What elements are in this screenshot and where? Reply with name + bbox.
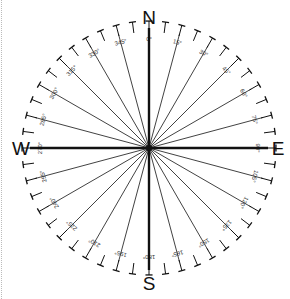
tick-mark <box>69 240 78 251</box>
tick-mark <box>23 128 34 135</box>
tick-mark <box>57 56 67 66</box>
south-label: S <box>143 273 156 294</box>
tick-mark <box>207 36 216 47</box>
tick-mark <box>97 29 104 40</box>
tick-mark <box>241 219 252 228</box>
tick-mark <box>241 68 252 77</box>
tick-mark <box>162 22 169 33</box>
tick-mark <box>256 192 267 199</box>
compass-ray <box>149 148 180 262</box>
compass-ray <box>90 148 149 250</box>
tick-mark <box>82 36 91 47</box>
tick-mark <box>82 248 91 259</box>
tick-mark <box>249 81 260 90</box>
tick-mark <box>231 230 241 240</box>
degree-label: 105° <box>250 170 259 184</box>
compass-ray <box>35 117 149 148</box>
tick-mark <box>264 161 275 168</box>
tick-mark <box>37 81 48 90</box>
compass-ray <box>118 148 149 262</box>
degree-label: 285° <box>39 112 48 126</box>
tick-mark <box>113 260 120 271</box>
tick-mark <box>30 96 41 103</box>
tick-mark <box>261 177 272 184</box>
degree-label: 330° <box>87 47 101 59</box>
degree-label: 300° <box>49 86 61 100</box>
tick-mark <box>129 263 136 274</box>
compass-ray <box>35 148 149 179</box>
degree-label: 15° <box>172 38 183 46</box>
degree-label: 75° <box>251 115 259 126</box>
degree-label: 165° <box>170 249 184 258</box>
tick-mark <box>25 112 36 119</box>
tick-mark <box>57 230 67 240</box>
tick-mark <box>193 255 200 266</box>
tick-mark <box>23 161 34 168</box>
tick-mark <box>207 248 216 259</box>
tick-mark <box>261 112 272 119</box>
tick-mark <box>25 177 36 184</box>
tick-mark <box>46 219 57 228</box>
tick-mark <box>46 68 57 77</box>
compass-ray <box>149 148 263 179</box>
compass-rose: 0°15°30°45°60°75°90°105°120°135°150°165°… <box>0 0 290 299</box>
tick-mark <box>113 24 120 35</box>
compass-ray <box>149 117 263 148</box>
degree-label: 30° <box>198 48 209 58</box>
north-label: N <box>142 7 156 28</box>
compass-ray <box>90 46 149 148</box>
degree-label: 150° <box>196 237 210 249</box>
east-label: E <box>272 138 285 159</box>
compass-ray <box>66 148 149 231</box>
compass-ray <box>149 34 180 148</box>
degree-label: 120° <box>238 196 250 210</box>
compass-ray <box>149 89 251 148</box>
compass-ray <box>47 89 149 148</box>
tick-mark <box>193 29 200 40</box>
degree-label: 255° <box>39 169 48 183</box>
compass-ray <box>66 65 149 148</box>
tick-mark <box>264 128 275 135</box>
tick-mark <box>256 96 267 103</box>
degree-label: 60° <box>239 88 249 99</box>
tick-mark <box>220 45 229 56</box>
tick-mark <box>30 192 41 199</box>
compass-ray <box>149 148 232 231</box>
degree-label: 345° <box>114 38 128 47</box>
tick-mark <box>162 263 169 274</box>
degree-label: 240° <box>48 195 60 209</box>
center-point <box>146 145 152 151</box>
tick-mark <box>231 56 241 66</box>
compass-ray <box>118 34 149 148</box>
tick-mark <box>220 240 229 251</box>
tick-mark <box>97 255 104 266</box>
compass-ray <box>149 148 251 207</box>
tick-mark <box>69 45 78 56</box>
tick-mark <box>178 260 185 271</box>
degree-label: 195° <box>113 249 127 258</box>
compass-ray <box>149 65 232 148</box>
west-label: W <box>12 138 30 159</box>
compass-ray <box>47 148 149 207</box>
degree-label: 210° <box>87 237 101 249</box>
tick-mark <box>178 24 185 35</box>
tick-mark <box>129 22 136 33</box>
compass-ray <box>149 46 208 148</box>
compass-ray <box>149 148 208 250</box>
tick-mark <box>37 206 48 215</box>
tick-mark <box>249 206 260 215</box>
